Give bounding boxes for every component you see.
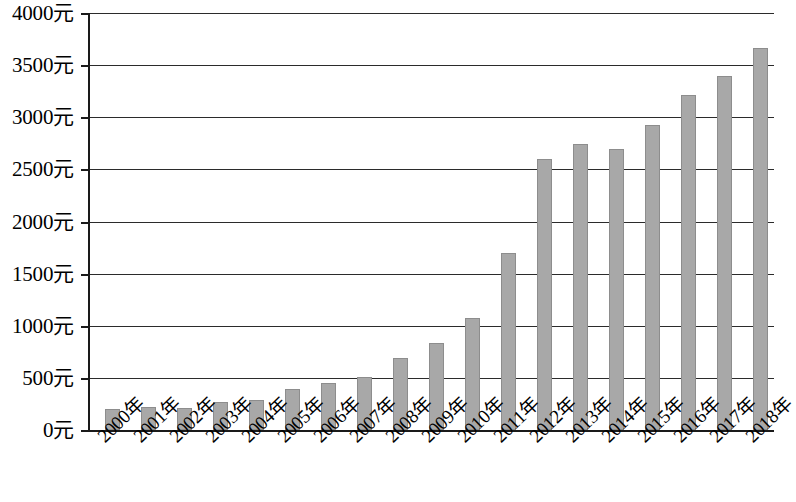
y-axis-tick-label: 0元 bbox=[43, 420, 74, 441]
bar bbox=[717, 76, 732, 430]
bar bbox=[537, 159, 552, 430]
bar bbox=[681, 95, 696, 430]
y-axis-tick bbox=[81, 326, 90, 328]
plot-area bbox=[88, 13, 774, 432]
y-axis-tick-label: 1500元 bbox=[12, 263, 74, 284]
y-axis-tick-label: 3000元 bbox=[12, 107, 74, 128]
y-axis-tick bbox=[81, 222, 90, 224]
y-axis-tick bbox=[81, 274, 90, 276]
y-axis-tick bbox=[81, 65, 90, 67]
y-axis-tick-label: 4000元 bbox=[12, 3, 74, 24]
y-axis-tick-label: 2000元 bbox=[12, 211, 74, 232]
bar bbox=[573, 144, 588, 430]
bar bbox=[753, 48, 768, 430]
y-axis-tick-label: 1000元 bbox=[12, 315, 74, 336]
y-axis-tick-labels: 0元500元1000元1500元2000元2500元3000元3500元4000… bbox=[0, 0, 80, 440]
y-axis-tick bbox=[81, 378, 90, 380]
bar-series bbox=[90, 13, 774, 430]
y-axis-tick bbox=[81, 13, 90, 15]
y-axis-tick-label: 2500元 bbox=[12, 159, 74, 180]
y-axis-tick-label: 500元 bbox=[22, 367, 74, 388]
bar bbox=[645, 125, 660, 430]
bar bbox=[609, 149, 624, 430]
y-axis-tick bbox=[81, 169, 90, 171]
y-axis-tick bbox=[81, 117, 90, 119]
y-axis-tick-label: 3500元 bbox=[12, 55, 74, 76]
x-axis-tick-labels: 2000年2001年2002年2003年2004年2005年2006年2007年… bbox=[88, 432, 772, 502]
